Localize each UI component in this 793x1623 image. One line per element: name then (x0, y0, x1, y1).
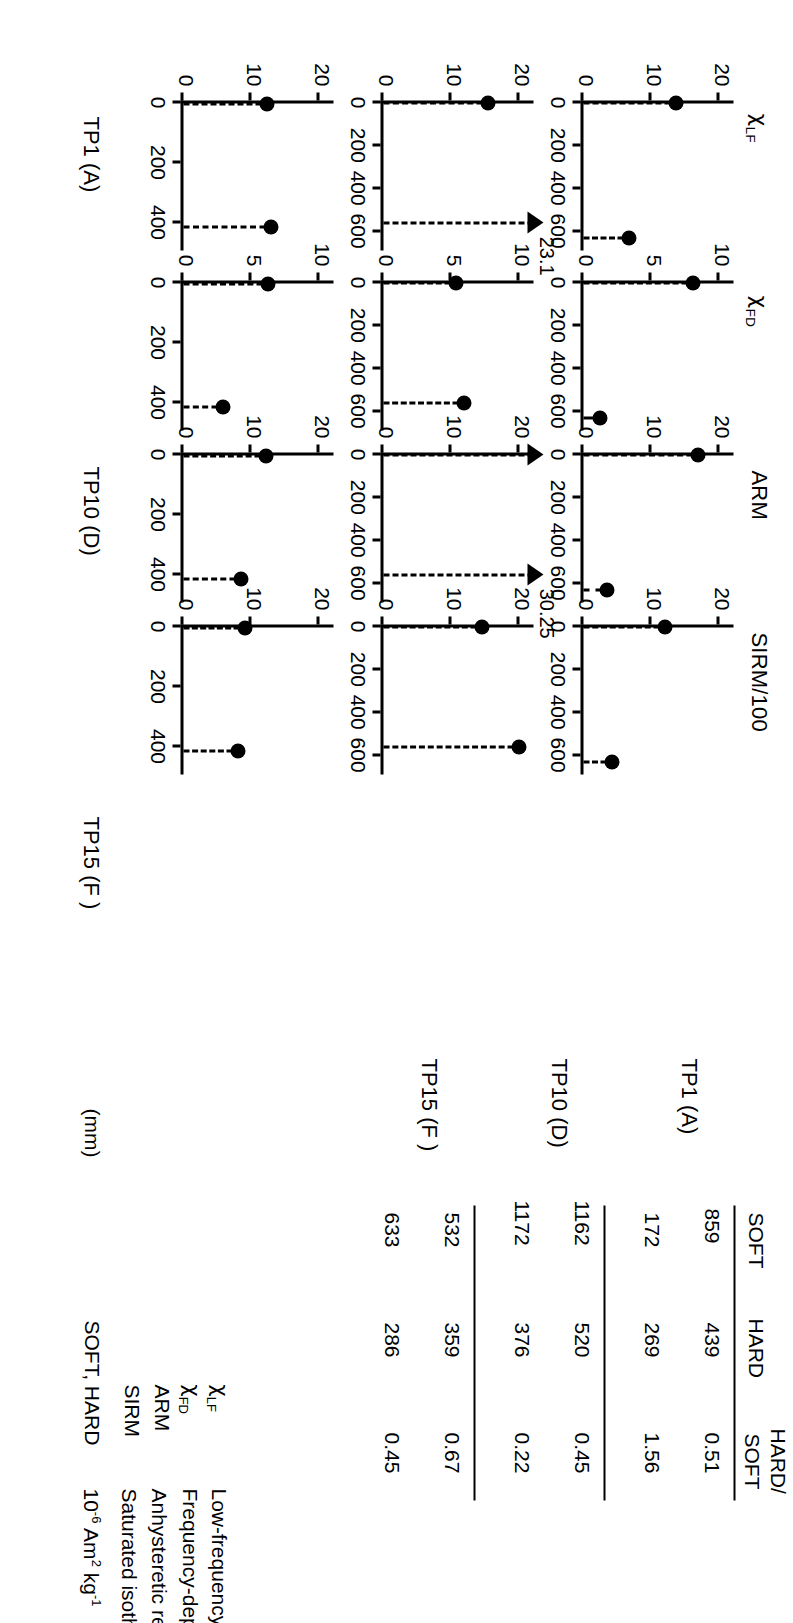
data-point (215, 399, 230, 414)
y-tick-label: 10 (441, 394, 465, 438)
table-rule-2 (603, 1205, 605, 1500)
x-tick (572, 186, 580, 189)
y-tick (716, 616, 719, 624)
y-tick (580, 92, 583, 100)
table-row: 859 (699, 1208, 723, 1243)
y-tick-label: 0 (373, 222, 397, 266)
legend-desc-sh-b: Am (79, 1523, 102, 1559)
y-tick-label: 5 (241, 222, 265, 266)
y-tick-label: 10 (441, 566, 465, 610)
figure-stage: 0200400600010200200400600051002004006000… (0, 0, 793, 1623)
x-tick (572, 538, 580, 541)
legend-desc-chi-lf-a: Low-frequency susceptibility, 10 (207, 1488, 230, 1623)
y-tick-label: 20 (309, 566, 333, 610)
data-stem (183, 282, 262, 285)
y-tick-label: 0 (173, 394, 197, 438)
y-tick-label: 10 (241, 566, 265, 610)
data-stem (383, 281, 450, 284)
y-tick (380, 616, 383, 624)
table-row: 633 (379, 1212, 403, 1247)
y-tick (180, 272, 183, 280)
y-tick (580, 272, 583, 280)
data-stem (583, 281, 687, 284)
table-row: 0.51 (699, 1432, 723, 1473)
x-tick-label: 400 (545, 516, 569, 564)
x-tick-label: 400 (345, 344, 369, 392)
offscale-arrow-icon (527, 443, 543, 465)
y-tick (448, 92, 451, 100)
x-tick (372, 452, 380, 455)
x-tick-label: 400 (345, 516, 369, 564)
y-tick-label: 0 (573, 222, 597, 266)
data-stem (183, 102, 261, 105)
legend-desc-sh-sup3: -1 (88, 1594, 103, 1606)
legend-desc-chi-lf: Low-frequency susceptibility, 10-6 Am2 k… (206, 1488, 231, 1623)
x-tick-label: 0 (145, 602, 169, 650)
x-tick-label: 0 (145, 258, 169, 306)
x-axis-line (580, 624, 583, 774)
legend-symbol-chi-fd: χFD (176, 1384, 203, 1414)
x-tick (372, 710, 380, 713)
x-tick (572, 323, 580, 326)
y-tick-label: 20 (509, 394, 533, 438)
x-tick (572, 624, 580, 627)
y-tick (248, 92, 251, 100)
data-point (258, 448, 273, 463)
plot-panel: 020040060001020 (583, 624, 733, 774)
legend-desc-sh-a: 10 (79, 1488, 102, 1511)
data-point (230, 743, 245, 758)
plot-panel: 020040060001020 (383, 624, 533, 774)
data-point (259, 96, 274, 111)
data-stem (583, 760, 606, 763)
data-stem (583, 101, 670, 104)
y-tick-label: 20 (709, 566, 733, 610)
x-tick (172, 624, 180, 627)
x-tick-label: 600 (345, 559, 369, 607)
x-tick-label: 200 (545, 121, 569, 169)
data-point (599, 582, 614, 597)
x-tick (572, 143, 580, 146)
data-point (668, 95, 683, 110)
x-tick-label: 400 (145, 198, 169, 246)
y-tick (648, 272, 651, 280)
legend-symbol-arm: ARM (149, 1384, 173, 1431)
x-axis-line (380, 624, 383, 774)
data-stem (383, 453, 533, 456)
legend-desc-sh-c: kg (79, 1566, 102, 1594)
x-tick (372, 667, 380, 670)
y-tick-label: 0 (173, 566, 197, 610)
data-point (448, 275, 463, 290)
x-tick (172, 160, 180, 163)
x-tick-label: 0 (145, 78, 169, 126)
y-tick (516, 616, 519, 624)
x-tick-label: 200 (145, 318, 169, 366)
data-point (260, 276, 275, 291)
data-stem (383, 745, 513, 748)
y-tick (180, 92, 183, 100)
x-tick-label: 200 (345, 645, 369, 693)
y-tick-label: 10 (709, 222, 733, 266)
x-tick-label: 200 (145, 490, 169, 538)
y-tick-label: 20 (709, 394, 733, 438)
panel-title-chi-fd: χFD (743, 295, 771, 326)
data-point (685, 275, 700, 290)
y-tick-label: 20 (709, 42, 733, 86)
table-group-label-tp15: TP15 (F ) (415, 1058, 441, 1151)
offscale-value-label: 23.1 (534, 236, 557, 275)
legend-desc-soft-hard: 10-6 Am2 kg-1 (78, 1488, 103, 1606)
y-tick (516, 92, 519, 100)
table-row: 520 (569, 1322, 593, 1357)
x-tick-label: 400 (145, 378, 169, 426)
table-header-ratio-line1: HARD/ (765, 1428, 789, 1493)
y-tick-label: 0 (173, 222, 197, 266)
x-tick-label: 600 (545, 731, 569, 779)
legend-desc-sirm: Saturated isothermal remanent magnetisat… (116, 1488, 141, 1623)
legend-symbol-soft-hard: SOFT, HARD (79, 1320, 103, 1445)
x-tick (572, 100, 580, 103)
y-tick (716, 272, 719, 280)
table-row: 359 (439, 1322, 463, 1357)
y-tick-label: 0 (373, 566, 397, 610)
rotated-figure: 0200400600010200200400600051002004006000… (0, 0, 793, 1623)
y-tick-label: 5 (641, 222, 665, 266)
x-tick-label: 200 (345, 301, 369, 349)
